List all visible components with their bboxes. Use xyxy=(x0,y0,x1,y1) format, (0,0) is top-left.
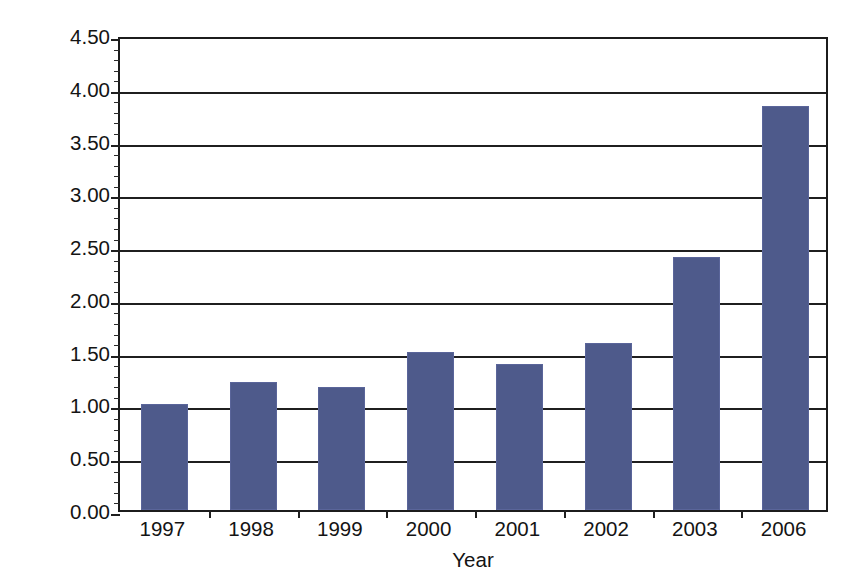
x-axis-tick-label-2000: 2000 xyxy=(406,518,452,541)
y-axis-tick-major xyxy=(111,92,120,94)
y-axis-tick-label-group: 0.000.501.001.502.002.503.003.504.004.50 xyxy=(44,0,116,579)
y-axis-tick-major xyxy=(111,461,120,463)
x-axis-tick-label-2001: 2001 xyxy=(495,518,541,541)
x-axis-tick xyxy=(386,510,388,518)
bar-1998 xyxy=(230,382,277,510)
bar-2001 xyxy=(496,364,543,510)
plot-area xyxy=(118,37,828,512)
x-axis-tick xyxy=(741,510,743,518)
y-axis-tick-label: 0.50 xyxy=(70,449,110,470)
y-axis-tick-major xyxy=(111,39,120,41)
x-axis-tick-label-2006: 2006 xyxy=(761,518,807,541)
y-axis-tick-label: 4.50 xyxy=(70,27,110,48)
x-axis-tick-label-1998: 1998 xyxy=(228,518,274,541)
x-axis-tick-label-2003: 2003 xyxy=(672,518,718,541)
y-axis-tick-major xyxy=(111,408,120,410)
y-axis-tick-major xyxy=(111,250,120,252)
y-axis-tick-major xyxy=(111,356,120,358)
y-axis-tick-major xyxy=(111,145,120,147)
y-axis-tick-label: 1.50 xyxy=(70,343,110,364)
x-axis-tick-label-2002: 2002 xyxy=(583,518,629,541)
x-axis-tick xyxy=(298,510,300,518)
x-axis-tick xyxy=(564,510,566,518)
bar-2003 xyxy=(673,257,720,510)
bar-2006 xyxy=(762,106,809,510)
y-axis-tick-major xyxy=(111,197,120,199)
x-axis-tick-label-1997: 1997 xyxy=(140,518,186,541)
y-axis-tick-major xyxy=(111,303,120,305)
x-axis-tick-label-1999: 1999 xyxy=(317,518,363,541)
bar-2002 xyxy=(585,343,632,510)
y-axis-tick-label: 2.50 xyxy=(70,238,110,259)
y-axis-title: Ratio of pitch to stall designs xyxy=(14,0,48,71)
y-axis-tick-label: 4.00 xyxy=(70,80,110,101)
bar-2000 xyxy=(407,352,454,510)
x-axis-title: Year xyxy=(118,548,828,572)
y-axis-tick-major xyxy=(111,514,120,516)
bar-chart-figure: Ratio of pitch to stall designs 0.000.50… xyxy=(0,0,851,579)
x-axis-tick xyxy=(475,510,477,518)
y-axis-tick-label: 0.00 xyxy=(70,502,110,523)
x-axis-tick xyxy=(653,510,655,518)
bar-1997 xyxy=(141,404,188,510)
y-axis-tick-label: 3.50 xyxy=(70,132,110,153)
y-axis-tick-label: 1.00 xyxy=(70,396,110,417)
bars-group xyxy=(120,39,826,510)
bar-1999 xyxy=(318,387,365,511)
x-axis-tick xyxy=(209,510,211,518)
y-axis-tick-label: 2.00 xyxy=(70,291,110,312)
x-axis-tick-label-group: 19971998199920002001200220032006 xyxy=(118,518,828,548)
y-axis-tick-label: 3.00 xyxy=(70,185,110,206)
